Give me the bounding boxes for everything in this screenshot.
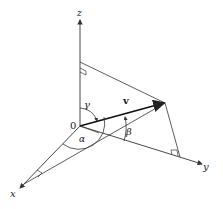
alpha-label: α (79, 134, 85, 144)
vector-label: v (122, 95, 130, 106)
z-axis-label: z (76, 8, 82, 18)
y-axis (80, 126, 202, 164)
alpha-ray (80, 126, 99, 133)
right-angle-x (37, 170, 42, 173)
gamma-label: γ (84, 99, 90, 110)
origin-label: 0 (70, 120, 76, 131)
y-axis-label: y (202, 161, 209, 172)
beta-label: β (125, 126, 132, 137)
projection-to-y (165, 103, 180, 157)
direction-angles-diagram: z y x 0 v γ α β (0, 0, 223, 209)
x-axis-label: x (10, 188, 16, 199)
right-angle-x-2 (38, 173, 42, 177)
right-angle-z (80, 68, 86, 75)
vector-v (80, 103, 164, 126)
